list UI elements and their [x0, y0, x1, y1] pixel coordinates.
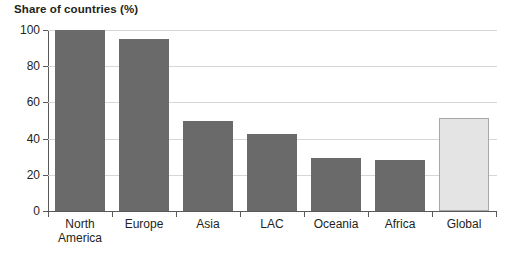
x-tick-mark-3 [240, 211, 241, 217]
y-tick-label-100: 100 [6, 24, 40, 36]
x-axis-label-lac: LAC [240, 218, 304, 232]
x-tick-mark-0 [48, 211, 49, 217]
gridline-60 [48, 102, 497, 103]
x-tick-mark-7 [496, 211, 497, 217]
bar-oceania[interactable] [311, 158, 361, 212]
bar-asia[interactable] [183, 121, 233, 212]
x-tick-mark-5 [368, 211, 369, 217]
x-axis-label-north-america: North America [48, 218, 112, 245]
bar-chart: Share of countries (%) 100 80 60 40 20 0… [0, 0, 509, 259]
x-axis-label-asia: Asia [176, 218, 240, 232]
gridline-80 [48, 66, 497, 67]
bar-europe[interactable] [119, 39, 169, 211]
x-tick-mark-1 [112, 211, 113, 217]
y-tick-label-80: 80 [6, 60, 40, 72]
x-axis-line [48, 211, 497, 212]
bar-africa[interactable] [375, 160, 425, 212]
bar-north-america[interactable] [55, 30, 105, 211]
y-axis-labels: 100 80 60 40 20 0 [0, 0, 40, 259]
y-tick-label-0: 0 [6, 205, 40, 217]
x-axis-label-africa: Africa [368, 218, 432, 232]
y-tick-label-20: 20 [6, 169, 40, 181]
plot-area [48, 30, 497, 211]
x-tick-mark-2 [176, 211, 177, 217]
bar-lac[interactable] [247, 134, 297, 211]
bar-global[interactable] [439, 118, 489, 211]
x-axis-label-oceania: Oceania [304, 218, 368, 232]
x-axis-label-europe: Europe [112, 218, 176, 232]
y-tick-label-40: 40 [6, 133, 40, 145]
x-tick-mark-4 [304, 211, 305, 217]
gridline-100 [48, 30, 497, 31]
y-tick-label-60: 60 [6, 96, 40, 108]
x-axis-label-global: Global [432, 218, 496, 232]
x-tick-mark-6 [432, 211, 433, 217]
